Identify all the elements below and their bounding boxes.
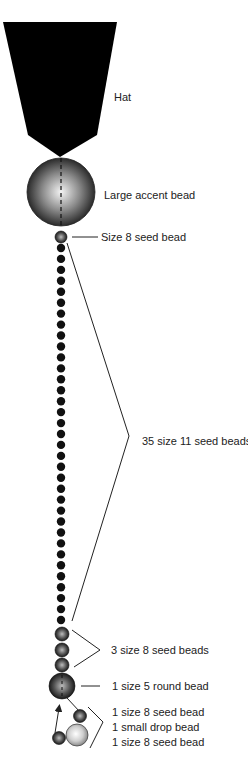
size11-beads — [57, 244, 65, 624]
small-drop-bead — [66, 724, 88, 746]
bracket-size8-three — [72, 630, 100, 667]
hat-shape — [3, 22, 117, 157]
label-size11: 35 size 11 seed beads — [142, 435, 248, 447]
label-dangle-1: 1 size 8 seed bead — [112, 706, 204, 718]
size8-beads-group — [55, 627, 69, 672]
label-dangle-3: 1 size 8 seed bead — [112, 736, 204, 748]
dangle-size8-bead-2 — [53, 732, 66, 745]
label-size8-three: 3 size 8 seed beads — [111, 644, 209, 656]
arrow-thread — [55, 708, 59, 733]
label-large-bead: Large accent bead — [104, 189, 195, 201]
bracket-size11 — [67, 243, 129, 621]
dangle-size8-bead-1 — [74, 710, 87, 723]
size8-seed-bead-top — [55, 231, 67, 243]
label-hat: Hat — [114, 91, 131, 103]
label-dangle-2: 1 small drop bead — [112, 721, 199, 733]
bracket-dangle — [88, 707, 103, 748]
beading-diagram: Hat Large accent bead Size 8 seed bead 3… — [0, 0, 248, 780]
label-size8-top: Size 8 seed bead — [101, 231, 186, 243]
label-size5: 1 size 5 round bead — [112, 680, 209, 692]
